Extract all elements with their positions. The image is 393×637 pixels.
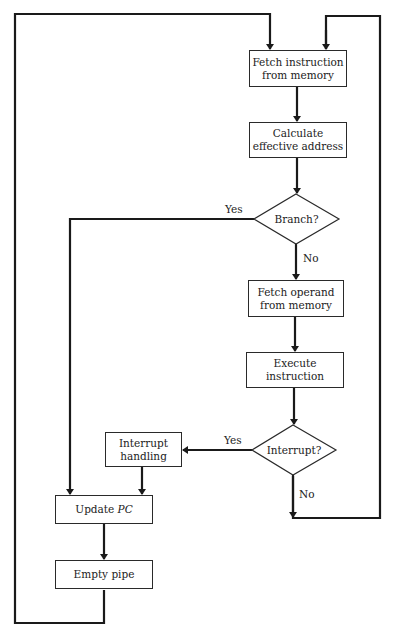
edge-label-branch-yes: Yes bbox=[225, 203, 243, 215]
node-text: Interrupt? bbox=[267, 444, 322, 456]
node-calculate-effective-address: Calculate effective address bbox=[249, 122, 347, 158]
node-text: Execute instruction bbox=[247, 357, 343, 383]
node-fetch-operand: Fetch operand from memory bbox=[248, 280, 344, 317]
node-update-pc: Update PC bbox=[55, 495, 153, 524]
node-text: Update bbox=[75, 503, 117, 515]
node-text: from memory bbox=[257, 299, 334, 312]
node-text: handling bbox=[119, 450, 168, 463]
node-interrupt-handling: Interrupt handling bbox=[105, 432, 182, 467]
node-text: Branch? bbox=[274, 213, 318, 225]
edge-label-branch-no: No bbox=[303, 252, 319, 264]
node-branch-decision: Branch? bbox=[254, 209, 339, 229]
node-text: Interrupt bbox=[119, 437, 168, 450]
edge-emptypipe-to-fetch bbox=[15, 14, 270, 623]
node-text: Calculate bbox=[253, 127, 344, 140]
node-text: Fetch operand bbox=[257, 286, 334, 299]
flowchart-connectors bbox=[0, 0, 393, 637]
node-interrupt-decision: Interrupt? bbox=[252, 440, 336, 460]
edge-label-interrupt-no: No bbox=[299, 488, 315, 500]
flowchart-diagram: Fetch instruction from memory Calculate … bbox=[0, 0, 393, 637]
node-text-pc-variable: PC bbox=[118, 503, 133, 515]
node-fetch-instruction: Fetch instruction from memory bbox=[249, 50, 347, 87]
node-text: Empty pipe bbox=[74, 568, 135, 581]
edge-label-interrupt-yes: Yes bbox=[224, 434, 242, 446]
node-execute-instruction: Execute instruction bbox=[246, 352, 344, 388]
node-text: effective address bbox=[253, 140, 344, 153]
node-empty-pipe: Empty pipe bbox=[55, 560, 153, 589]
node-text: from memory bbox=[252, 69, 343, 82]
node-text: Fetch instruction bbox=[252, 56, 343, 69]
